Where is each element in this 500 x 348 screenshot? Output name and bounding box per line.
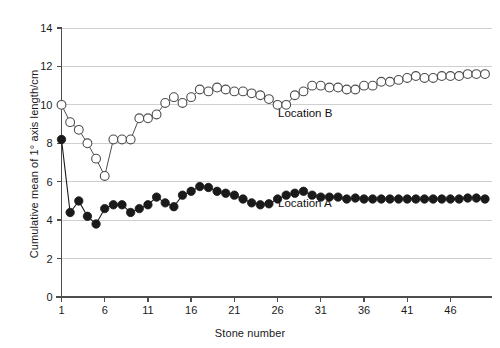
svg-text:10: 10 xyxy=(40,99,52,111)
series-location-b xyxy=(57,70,489,181)
svg-text:36: 36 xyxy=(358,304,370,316)
axis-lines xyxy=(56,28,493,297)
svg-text:6: 6 xyxy=(102,304,108,316)
svg-text:16: 16 xyxy=(185,304,197,316)
svg-text:8: 8 xyxy=(46,137,52,149)
y-axis-title: Cumulative mean of 1° axis length/cm xyxy=(28,34,40,294)
svg-text:1: 1 xyxy=(58,304,64,316)
series-label-location-b: Location B xyxy=(278,107,332,119)
svg-text:2: 2 xyxy=(46,253,52,265)
svg-text:31: 31 xyxy=(315,304,327,316)
svg-text:41: 41 xyxy=(401,304,413,316)
x-axis-ticks: 161116212631364146 xyxy=(58,297,456,316)
svg-text:6: 6 xyxy=(46,176,52,188)
svg-text:0: 0 xyxy=(46,291,52,303)
svg-text:4: 4 xyxy=(46,214,52,226)
chart-plot-area: 02468101214 161116212631364146 xyxy=(0,0,500,348)
x-axis-title: Stone number xyxy=(0,327,500,339)
chart-figure: 02468101214 161116212631364146 Cumulativ… xyxy=(0,0,500,348)
series-label-location-a: Location A xyxy=(278,197,332,209)
svg-text:26: 26 xyxy=(271,304,283,316)
y-axis-ticks: 02468101214 xyxy=(40,22,61,303)
grid-lines xyxy=(62,28,493,259)
svg-text:14: 14 xyxy=(40,22,52,34)
svg-text:46: 46 xyxy=(444,304,456,316)
svg-text:12: 12 xyxy=(40,60,52,72)
svg-text:21: 21 xyxy=(228,304,240,316)
svg-text:11: 11 xyxy=(142,304,153,316)
